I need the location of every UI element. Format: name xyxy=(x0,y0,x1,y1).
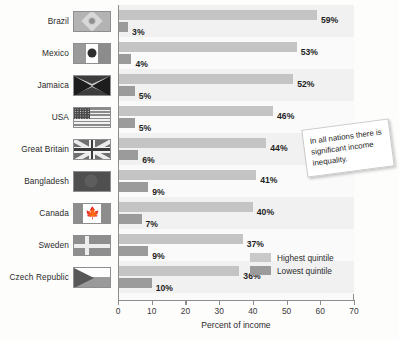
x-axis-line xyxy=(118,300,354,301)
category-row-jamaica: Jamaica xyxy=(0,69,118,101)
bar-value-label: 3% xyxy=(132,27,144,37)
category-row-bangladesh: Bangladesh xyxy=(0,165,118,197)
x-tick-label: 40 xyxy=(248,306,257,316)
bar-highest-quintile xyxy=(118,234,243,244)
category-label: USA xyxy=(52,112,73,122)
bar-highest-quintile xyxy=(118,42,297,52)
bar-value-label: 9% xyxy=(152,251,164,261)
flag-jamaica-icon xyxy=(73,75,111,96)
bar-value-label: 4% xyxy=(135,59,147,69)
annotation-callout: In all nations there is significant inco… xyxy=(301,118,395,177)
bar-highest-quintile xyxy=(118,10,317,20)
bar-lowest-quintile xyxy=(118,278,152,288)
annotation-callout-text: In all nations there is significant inco… xyxy=(309,126,387,168)
bar-value-label: 40% xyxy=(257,207,274,217)
category-row-mexico: Mexico xyxy=(0,37,118,69)
category-label: Jamaica xyxy=(37,80,73,90)
bar-highest-quintile xyxy=(118,266,239,276)
flag-canada-maple-leaf: 🍁 xyxy=(85,207,100,219)
bar-lowest-quintile xyxy=(118,246,148,256)
flag-mexico-emblem xyxy=(88,49,97,58)
x-tick xyxy=(253,300,254,305)
bar-value-label: 59% xyxy=(321,15,338,25)
x-tick xyxy=(219,300,220,305)
x-tick-label: 0 xyxy=(116,306,121,316)
bar-lowest-quintile xyxy=(118,86,135,96)
chart-figure: BrazilMexicoJamaicaUSAGreat BritainBangl… xyxy=(0,0,399,340)
x-tick-label: 20 xyxy=(181,306,190,316)
x-tick-label: 70 xyxy=(349,306,358,316)
bar-value-label: 10% xyxy=(156,283,173,293)
bar-value-label: 53% xyxy=(301,47,318,57)
category-row-brazil: Brazil xyxy=(0,5,118,37)
legend-item: Lowest quintile xyxy=(250,265,334,276)
flag-great-britain-icon xyxy=(73,139,111,160)
x-tick xyxy=(287,300,288,305)
flag-czech-triangle xyxy=(74,268,94,288)
x-tick-label: 10 xyxy=(147,306,156,316)
flag-bangladesh-icon xyxy=(73,171,111,192)
x-tick xyxy=(118,300,119,305)
chart-legend: Highest quintileLowest quintile xyxy=(250,252,334,278)
category-label: Czech Republic xyxy=(9,272,73,282)
flag-brazil-icon xyxy=(73,11,111,32)
bar-value-label: 46% xyxy=(277,111,294,121)
legend-swatch xyxy=(250,266,271,275)
category-row-usa: USA xyxy=(0,101,118,133)
x-tick-label: 50 xyxy=(282,306,291,316)
bar-lowest-quintile xyxy=(118,214,142,224)
x-tick-label: 30 xyxy=(214,306,223,316)
flag-brazil-globe xyxy=(88,17,96,25)
category-row-sweden: Sweden xyxy=(0,229,118,261)
bar-highest-quintile xyxy=(118,202,253,212)
bar-lowest-quintile xyxy=(118,118,135,128)
bar-value-label: 41% xyxy=(260,175,277,185)
bar-value-label: 44% xyxy=(270,143,287,153)
bar-value-label: 37% xyxy=(247,239,264,249)
x-tick xyxy=(152,300,153,305)
legend-swatch xyxy=(250,253,271,262)
bar-highest-quintile xyxy=(118,74,293,84)
bar-lowest-quintile xyxy=(118,22,128,32)
legend-label: Lowest quintile xyxy=(277,266,332,276)
legend-label: Highest quintile xyxy=(277,253,334,263)
category-row-canada: Canada🍁 xyxy=(0,197,118,229)
flag-sweden-icon xyxy=(73,235,111,256)
x-tick xyxy=(185,300,186,305)
category-label: Great Britain xyxy=(21,144,73,154)
flag-usa-icon xyxy=(73,107,111,128)
bar-lowest-quintile xyxy=(118,150,138,160)
category-label: Sweden xyxy=(38,240,73,250)
bar-highest-quintile xyxy=(118,170,256,180)
flag-usa-canton xyxy=(74,108,90,119)
flag-czech-republic-icon xyxy=(73,267,111,288)
x-tick xyxy=(354,300,355,305)
bar-value-label: 5% xyxy=(139,91,151,101)
bar-lowest-quintile xyxy=(118,182,148,192)
bar-value-label: 7% xyxy=(146,219,158,229)
bar-value-label: 5% xyxy=(139,123,151,133)
legend-item: Highest quintile xyxy=(250,252,334,263)
category-label: Canada xyxy=(39,208,73,218)
flag-bangladesh-disc xyxy=(84,175,97,188)
bar-value-label: 6% xyxy=(142,155,154,165)
category-label: Bangladesh xyxy=(24,176,73,186)
flag-canada-icon: 🍁 xyxy=(73,203,111,224)
category-label: Brazil xyxy=(48,16,73,26)
category-row-czech-republic: Czech Republic xyxy=(0,261,118,293)
flag-mexico-icon xyxy=(73,43,111,64)
bar-highest-quintile xyxy=(118,106,273,116)
y-axis-line xyxy=(118,5,119,301)
category-label: Mexico xyxy=(42,48,73,58)
x-axis-title: Percent of income xyxy=(118,320,354,330)
bar-value-label: 9% xyxy=(152,187,164,197)
x-tick-label: 60 xyxy=(316,306,325,316)
x-tick xyxy=(320,300,321,305)
bar-highest-quintile xyxy=(118,138,266,148)
category-row-great-britain: Great Britain xyxy=(0,133,118,165)
bar-value-label: 52% xyxy=(297,79,314,89)
category-axis-labels: BrazilMexicoJamaicaUSAGreat BritainBangl… xyxy=(0,5,118,301)
bar-lowest-quintile xyxy=(118,54,131,64)
